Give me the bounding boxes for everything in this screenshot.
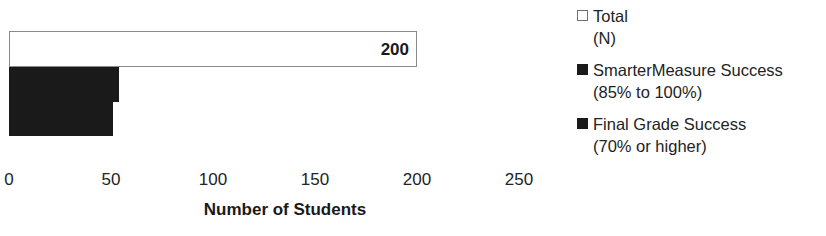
x-tick-100: 100: [199, 170, 227, 190]
plot-area: 200 0 50 100 150 200 250 Number of Stude…: [0, 0, 570, 236]
x-tick-150: 150: [301, 170, 329, 190]
legend-swatch-filled-square-icon: [577, 118, 588, 129]
legend-entry-total[interactable]: Total (N): [577, 6, 826, 50]
legend-swatch-filled-square-icon: [577, 64, 588, 75]
x-tick-50: 50: [102, 170, 121, 190]
bar-final-grade-success[interactable]: [9, 102, 113, 136]
legend-entry-smartermeasure-line2: (85% to 100%): [593, 82, 826, 104]
x-tick-0: 0: [4, 170, 13, 190]
x-axis-tick-labels: 0 50 100 150 200 250: [0, 170, 570, 196]
bar-smartermeasure-success[interactable]: [9, 67, 119, 102]
legend-entry-final-grade-success[interactable]: Final Grade Success (70% or higher): [577, 114, 826, 158]
bar-total[interactable]: 200: [9, 31, 417, 67]
legend-entry-smartermeasure-line1: SmarterMeasure Success: [593, 60, 783, 82]
bar-total-value-label: 200: [381, 41, 409, 58]
x-tick-250: 250: [505, 170, 533, 190]
legend-entry-finalgrade-line2: (70% or higher): [593, 136, 826, 158]
x-axis-title: Number of Students: [0, 200, 570, 220]
chart-legend: Total (N) SmarterMeasure Success (85% to…: [577, 6, 826, 168]
legend-entry-total-line1: Total: [593, 6, 628, 28]
x-tick-200: 200: [403, 170, 431, 190]
legend-entry-total-line2: (N): [593, 28, 826, 50]
horizontal-bar-chart: 200 0 50 100 150 200 250 Number of Stude…: [0, 0, 826, 236]
legend-swatch-open-square-icon: [577, 10, 588, 21]
legend-entry-finalgrade-line1: Final Grade Success: [593, 114, 746, 136]
legend-entry-smartermeasure-success[interactable]: SmarterMeasure Success (85% to 100%): [577, 60, 826, 104]
